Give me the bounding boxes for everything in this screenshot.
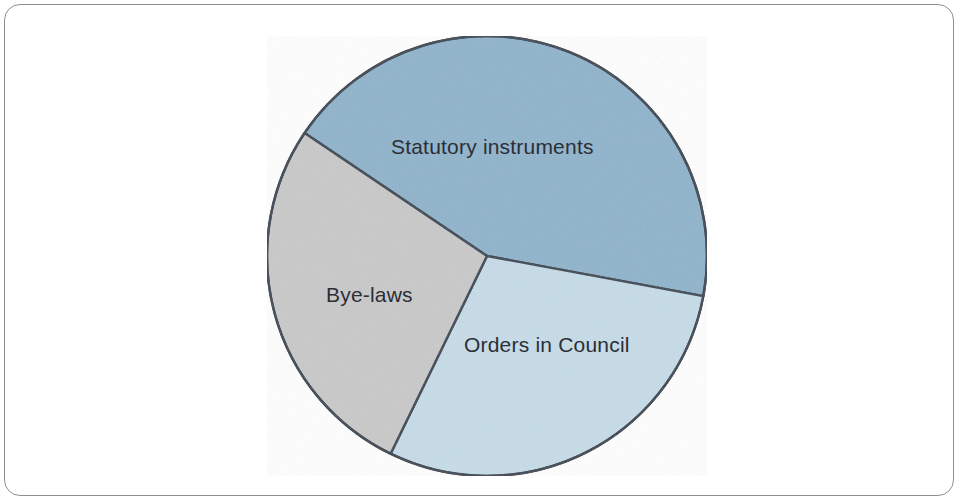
pie-chart-area: Statutory instruments Orders in Council … xyxy=(0,0,962,504)
pie-chart-figure: Statutory instruments Orders in Council … xyxy=(0,0,962,504)
pie-chart-svg xyxy=(0,0,962,504)
pie-label-statutory-instruments: Statutory instruments xyxy=(391,135,594,159)
pie-label-orders-in-council: Orders in Council xyxy=(464,333,630,357)
pie-label-bye-laws: Bye-laws xyxy=(326,283,413,307)
